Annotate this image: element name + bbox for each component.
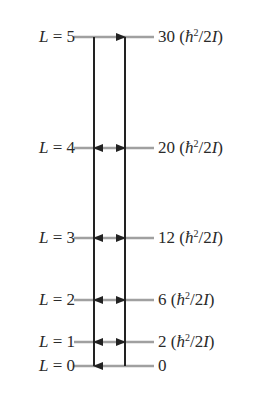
quantum-number-value: = 2 <box>48 290 75 309</box>
energy-unit-part: ( <box>175 138 185 157</box>
energy-unit-part: ħ <box>176 332 185 351</box>
energy-value: 2 <box>158 332 167 351</box>
level-label-L5: L = 5 <box>39 28 75 45</box>
quantum-number-value: = 0 <box>48 356 75 375</box>
quantum-number-value: = 1 <box>48 332 75 351</box>
energy-unit-part: /2 <box>190 332 203 351</box>
quantum-number-symbol: L <box>39 356 48 375</box>
energy-unit-part: ħ <box>176 290 185 309</box>
quantum-number-value: = 4 <box>48 138 75 157</box>
quantum-number-value: = 5 <box>48 27 75 46</box>
energy-label-L5: 30 (ħ2/2I) <box>158 28 223 45</box>
level-label-L3: L = 3 <box>39 229 75 246</box>
energy-unit-part: ( <box>167 332 177 351</box>
energy-unit-part: ) <box>217 138 223 157</box>
quantum-number-symbol: L <box>39 228 48 247</box>
level-label-L1: L = 1 <box>39 333 75 350</box>
level-label-L0: L = 0 <box>39 357 75 374</box>
energy-unit-part: /2 <box>198 138 211 157</box>
energy-unit-part: ) <box>209 332 215 351</box>
energy-unit-part: /2 <box>198 228 211 247</box>
energy-label-L3: 12 (ħ2/2I) <box>158 229 223 246</box>
level-label-L2: L = 2 <box>39 291 75 308</box>
energy-unit-part: ) <box>209 290 215 309</box>
energy-value: 6 <box>158 290 167 309</box>
quantum-number-value: = 3 <box>48 228 75 247</box>
energy-unit-part: ( <box>175 228 185 247</box>
quantum-number-symbol: L <box>39 290 48 309</box>
energy-value: 30 <box>158 27 175 46</box>
energy-label-L1: 2 (ħ2/2I) <box>158 333 215 350</box>
energy-unit-part: /2 <box>198 27 211 46</box>
quantum-number-symbol: L <box>39 138 48 157</box>
energy-unit-part: ( <box>175 27 185 46</box>
energy-value: 12 <box>158 228 175 247</box>
energy-label-L4: 20 (ħ2/2I) <box>158 139 223 156</box>
quantum-number-symbol: L <box>39 332 48 351</box>
energy-label-L0: 0 <box>158 357 167 374</box>
energy-label-L2: 6 (ħ2/2I) <box>158 291 215 308</box>
energy-unit-part: ) <box>217 228 223 247</box>
energy-value: 0 <box>158 356 167 375</box>
energy-unit-part: /2 <box>190 290 203 309</box>
quantum-number-symbol: L <box>39 27 48 46</box>
energy-value: 20 <box>158 138 175 157</box>
energy-unit-part: ) <box>217 27 223 46</box>
level-label-L4: L = 4 <box>39 139 75 156</box>
energy-unit-part: ( <box>167 290 177 309</box>
